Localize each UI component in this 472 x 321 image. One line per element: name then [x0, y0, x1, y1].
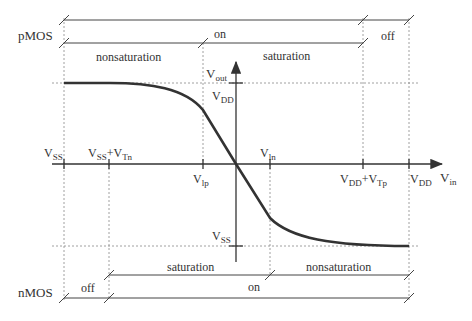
y-axis-label: Vout — [206, 66, 227, 83]
nmos-off-label: off — [81, 281, 95, 295]
nmos-on-label: on — [248, 280, 260, 294]
vln-label: Vln — [260, 146, 276, 162]
pmos-on-label: on — [214, 27, 226, 41]
vlp-label: Vlp — [193, 172, 209, 188]
pmos-off-label: off — [381, 29, 395, 43]
vss-x-label: VSS — [44, 146, 63, 162]
nmos-state-bars — [59, 270, 414, 303]
vtc-diagram: pMOS nMOS on off nonsaturation saturatio… — [0, 0, 472, 321]
vdd-x-label: VDD — [410, 172, 432, 188]
pmos-sat-label: saturation — [263, 49, 310, 63]
pmos-state-bars — [59, 15, 414, 48]
nmos-nonsat-label: nonsaturation — [306, 260, 371, 274]
vdd-y-label: VDD — [212, 89, 234, 105]
x-axis-label: Vin — [440, 170, 457, 187]
axes — [52, 62, 442, 262]
vdd-vtp-label: VDD+VTp — [340, 172, 388, 188]
vss-vtn-label: VSS+VTn — [88, 146, 133, 162]
pmos-label: pMOS — [18, 28, 53, 43]
pmos-nonsat-label: nonsaturation — [96, 50, 161, 64]
nmos-sat-label: saturation — [167, 260, 214, 274]
vss-y-label: VSS — [212, 229, 231, 245]
nmos-label: nMOS — [18, 285, 53, 300]
